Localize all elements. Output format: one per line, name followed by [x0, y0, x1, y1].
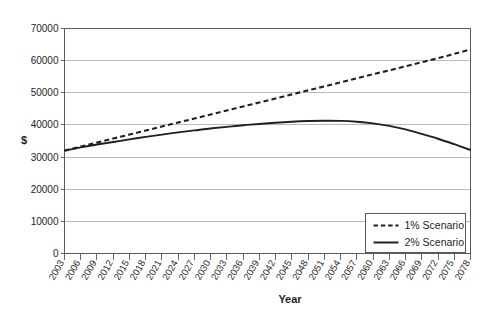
x-axis-tick-label: 2060 — [355, 258, 375, 282]
data-series-group — [65, 49, 471, 150]
x-axis-tick-label: 2075 — [436, 258, 456, 282]
x-axis-tick-label: 2012 — [95, 258, 115, 282]
x-axis-tick-label: 2009 — [79, 258, 99, 282]
x-axis-tick-label: 2057 — [338, 258, 358, 282]
y-axis-tick-labels: 010000200003000040000500006000070000 — [31, 23, 59, 259]
legend-label-1: 1% Scenario — [405, 219, 465, 231]
chart-legend: 1% Scenario2% Scenario — [366, 214, 466, 253]
x-axis-tick-label: 2006 — [62, 258, 82, 282]
x-axis-tick-label: 2033 — [209, 258, 229, 282]
x-axis-tick-label: 2042 — [257, 258, 277, 282]
x-axis-tick-label: 2069 — [403, 258, 423, 282]
x-axis-tick-label: 2066 — [387, 258, 407, 282]
x-axis-title: Year — [278, 293, 302, 305]
y-axis-title: $ — [21, 134, 27, 146]
x-axis-tick-label: 2030 — [192, 258, 212, 282]
y-axis-tick-label: 50000 — [31, 87, 59, 98]
x-axis-tick-label: 2039 — [241, 258, 261, 282]
x-axis-tick-label: 2078 — [452, 258, 472, 282]
x-axis-tick-label: 2051 — [306, 258, 326, 282]
x-axis-tick-label: 2063 — [371, 258, 391, 282]
x-axis-tick-label: 2045 — [273, 258, 293, 282]
x-axis-tick-label: 2024 — [160, 258, 180, 282]
series-line-1 — [65, 49, 471, 150]
y-axis-tick-label: 40000 — [31, 119, 59, 130]
x-axis-tick-label: 2003 — [46, 258, 66, 282]
x-axis-tick-label: 2021 — [144, 258, 164, 282]
y-axis-tick-label: 70000 — [31, 23, 59, 34]
x-axis-tick-label: 2015 — [111, 258, 131, 282]
x-axis-tick-label: 2027 — [176, 258, 196, 282]
x-axis-tick-label: 2072 — [420, 258, 440, 282]
line-chart: 010000200003000040000500006000070000 200… — [0, 0, 499, 317]
x-axis-tick-label: 2036 — [225, 258, 245, 282]
y-axis-tick-label: 10000 — [31, 216, 59, 227]
y-axis-tick-label: 20000 — [31, 184, 59, 195]
y-axis-tick-label: 30000 — [31, 152, 59, 163]
x-axis-tick-labels: 2003200620092012201520182021202420272030… — [46, 258, 472, 282]
x-axis-tick-label: 2048 — [290, 258, 310, 282]
chart-canvas: 010000200003000040000500006000070000 200… — [0, 0, 499, 317]
x-axis-tick-label: 2018 — [127, 258, 147, 282]
legend-label-2: 2% Scenario — [405, 236, 465, 248]
y-axis-tick-label: 60000 — [31, 55, 59, 66]
x-axis-tick-label: 2054 — [322, 258, 342, 282]
y-axis-tick-label: 0 — [53, 248, 59, 259]
